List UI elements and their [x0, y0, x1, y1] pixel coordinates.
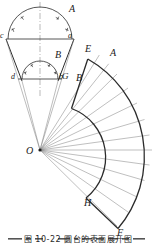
label-front-view-c: c	[0, 32, 4, 40]
label-front-view-A: A	[69, 4, 75, 14]
label-development-A: A	[110, 48, 116, 58]
label-front-view-a: a	[68, 32, 72, 40]
figure-caption: 图 10-22 圆台的表面展开图	[0, 233, 156, 244]
development-group	[38, 55, 152, 229]
outer-development-arc	[88, 59, 145, 229]
label-development-H: H	[84, 198, 91, 208]
apex-point	[38, 148, 41, 151]
label-development-B: B	[76, 73, 82, 83]
label-front-view-d: d	[11, 73, 15, 81]
development-edge-EG	[72, 59, 88, 109]
upper-half-plan-arc	[8, 7, 72, 39]
inner-development-arc	[72, 109, 106, 199]
label-front-view-B: B	[55, 50, 61, 60]
label-development-O: O	[26, 146, 33, 156]
label-development-G: G	[62, 72, 69, 81]
label-development-E: E	[85, 44, 91, 54]
figure-canvas	[0, 0, 156, 244]
